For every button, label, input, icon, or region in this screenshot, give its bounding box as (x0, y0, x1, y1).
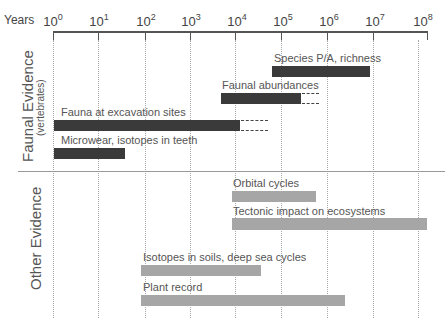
bar-plant (141, 295, 345, 306)
tick-label-1e8: 108 (413, 12, 432, 29)
tick-mark (427, 32, 428, 40)
bar-label-microwear: Microwear, isotopes in teeth (61, 134, 197, 146)
bar-label-abundances: Faunal abundances (222, 79, 319, 91)
tick-label-1e7: 107 (365, 12, 384, 29)
bar-label-isotopes-soils: Isotopes in soils, deep sea cycles (143, 251, 306, 263)
tick-label-1e6: 106 (319, 12, 338, 29)
section-subtitle-faunal: (vertebrates) (35, 79, 46, 136)
gridline (53, 40, 54, 318)
tick-label-1e1: 101 (89, 12, 108, 29)
bar-label-plant: Plant record (143, 281, 202, 293)
section-title-faunal: Faunal Evidence (19, 50, 36, 162)
gridline (145, 40, 146, 318)
tick-label-1e0: 100 (43, 12, 62, 29)
bar-extension-dashed (241, 130, 268, 131)
bar-label-tectonic: Tectonic impact on ecosystems (233, 205, 385, 217)
x-axis-line (53, 31, 428, 33)
tick-mark (53, 32, 54, 40)
section-title-other: Other Evidence (27, 187, 44, 290)
gridline (373, 40, 374, 318)
tick-mark (98, 32, 99, 40)
tick-label-1e3: 103 (181, 12, 200, 29)
gridline (98, 40, 99, 318)
bar-extension-dashed (302, 103, 319, 104)
tick-label-1e4: 104 (227, 12, 246, 29)
bar-extension-dashed (241, 120, 268, 121)
tick-mark (190, 32, 191, 40)
tick-mark (145, 32, 146, 40)
tick-label-1e2: 102 (136, 12, 155, 29)
tick-mark (281, 32, 282, 40)
bar-excavation (54, 120, 240, 131)
bar-label-species: Species P/A, richness (274, 52, 381, 64)
bar-label-excavation: Fauna at excavation sites (61, 106, 186, 118)
bar-extension-dashed (302, 93, 319, 94)
gridline (190, 40, 191, 318)
tick-mark (235, 32, 236, 40)
tick-mark (327, 32, 328, 40)
gridline (418, 40, 419, 318)
gridline (327, 40, 328, 318)
bar-label-orbital: Orbital cycles (233, 177, 299, 189)
section-divider (18, 171, 445, 172)
tick-label-1e5: 105 (273, 12, 292, 29)
bar-microwear (54, 148, 125, 159)
bar-orbital (232, 191, 316, 202)
bar-species (272, 66, 370, 77)
bar-abundances (221, 93, 301, 104)
tick-mark (373, 32, 374, 40)
bar-tectonic (232, 218, 427, 230)
bar-isotopes-soils (141, 265, 261, 276)
years-axis-label: Years (4, 13, 34, 27)
